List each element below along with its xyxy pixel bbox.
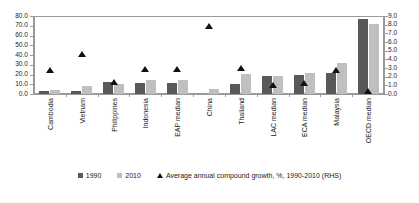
- bar-pair: [352, 16, 384, 94]
- x-axis-tick-label: OECD median: [365, 98, 372, 143]
- y-tickmark-left-icon: [30, 94, 33, 95]
- y-tick-left: 40.0: [15, 52, 28, 59]
- y-tickmark-right-icon: [385, 51, 388, 52]
- axis-line-bottom: [33, 94, 385, 95]
- bar-group[interactable]: [66, 16, 98, 94]
- bar-group[interactable]: [161, 16, 193, 94]
- bar-group[interactable]: [289, 16, 321, 94]
- x-axis-tick-label: ECA median: [301, 98, 308, 137]
- x-label-slot: LAC median: [257, 98, 289, 164]
- bar-group[interactable]: [34, 16, 66, 94]
- x-tickmark-icon: [352, 94, 353, 97]
- growth-marker-triangle-icon[interactable]: [269, 82, 277, 88]
- bar-1990[interactable]: [71, 91, 81, 94]
- x-label-slot: ECA median: [289, 98, 321, 164]
- legend-swatch-1990-icon: [78, 173, 83, 178]
- bar-2010[interactable]: [114, 84, 124, 94]
- y-tick-right: 9.0: [388, 13, 397, 20]
- x-axis-labels: CambodiaVietnamPhilippinesIndonesiaEAP m…: [34, 98, 384, 164]
- growth-marker-triangle-icon[interactable]: [110, 79, 118, 85]
- bar-2010[interactable]: [146, 80, 156, 94]
- bar-2010[interactable]: [178, 80, 188, 94]
- growth-marker-triangle-icon[interactable]: [46, 67, 54, 73]
- y-tick-right: 6.0: [388, 39, 397, 46]
- y-tick-right: 1.0: [388, 82, 397, 89]
- growth-marker-triangle-icon[interactable]: [300, 80, 308, 86]
- y-tick-right: 4.0: [388, 56, 397, 63]
- y-tick-right: 0.0: [388, 91, 397, 98]
- x-label-slot: Cambodia: [34, 98, 66, 164]
- bar-1990[interactable]: [326, 73, 336, 94]
- growth-marker-triangle-icon[interactable]: [173, 66, 181, 72]
- bar-2010[interactable]: [82, 86, 92, 94]
- y-tickmark-right-icon: [385, 59, 388, 60]
- x-axis-tick-label: Vietnam: [78, 98, 85, 124]
- x-axis-tick-label: Philippines: [110, 98, 117, 132]
- x-tickmark-icon: [289, 94, 290, 97]
- bar-group[interactable]: [257, 16, 289, 94]
- bar-group[interactable]: [129, 16, 161, 94]
- y-tick-right: 3.0: [388, 65, 397, 72]
- bar-group[interactable]: [320, 16, 352, 94]
- bar-2010[interactable]: [369, 24, 379, 94]
- x-axis-tick-label: EAP median: [174, 98, 181, 137]
- y-tickmark-right-icon: [385, 16, 388, 17]
- y-tick-left: 80.0: [15, 13, 28, 20]
- x-axis-tick-label: Malaysia: [333, 98, 340, 126]
- y-tickmark-left-icon: [30, 65, 33, 66]
- y-tickmark-left-icon: [30, 55, 33, 56]
- growth-marker-triangle-icon[interactable]: [78, 51, 86, 57]
- bar-group[interactable]: [225, 16, 257, 94]
- y-tickmark-left-icon: [30, 75, 33, 76]
- chart-legend: 1990 2010 Average annual compound growth…: [0, 168, 419, 182]
- bar-group[interactable]: [352, 16, 384, 94]
- x-tickmark-icon: [161, 94, 162, 97]
- bar-1990[interactable]: [230, 84, 240, 94]
- bar-2010[interactable]: [241, 74, 251, 94]
- legend-item-growth: Average annual compound growth, %, 1990-…: [157, 172, 341, 179]
- y-tick-left: 20.0: [15, 71, 28, 78]
- x-tickmark-icon: [257, 94, 258, 97]
- y-tickmark-left-icon: [30, 45, 33, 46]
- growth-marker-triangle-icon[interactable]: [237, 65, 245, 71]
- legend-label-growth: Average annual compound growth, %, 1990-…: [166, 172, 341, 179]
- y-tickmark-right-icon: [385, 77, 388, 78]
- bar-1990[interactable]: [135, 83, 145, 94]
- bar-group[interactable]: [98, 16, 130, 94]
- x-axis-tick-label: Thailand: [237, 98, 244, 125]
- x-label-slot: Indonesia: [129, 98, 161, 164]
- y-axis-right: 0.01.02.03.04.05.06.07.08.09.0: [388, 10, 418, 100]
- x-axis-tick-label: China: [205, 98, 212, 116]
- y-tick-left: 50.0: [15, 42, 28, 49]
- bar-pair: [161, 16, 193, 94]
- bar-1990[interactable]: [167, 83, 177, 94]
- bar-group[interactable]: [193, 16, 225, 94]
- y-tick-left: 70.0: [15, 22, 28, 29]
- axis-line-right: [384, 16, 385, 94]
- y-tick-left: 0.0: [19, 91, 28, 98]
- x-label-slot: Philippines: [98, 98, 130, 164]
- y-tick-right: 7.0: [388, 30, 397, 37]
- y-tick-right: 2.0: [388, 73, 397, 80]
- bar-2010[interactable]: [50, 90, 60, 94]
- y-tickmark-right-icon: [385, 68, 388, 69]
- y-tickmark-right-icon: [385, 25, 388, 26]
- growth-marker-triangle-icon[interactable]: [332, 67, 340, 73]
- y-tick-left: 10.0: [15, 81, 28, 88]
- x-label-slot: OECD median: [352, 98, 384, 164]
- legend-label-1990: 1990: [86, 172, 102, 179]
- y-tick-left: 60.0: [15, 32, 28, 39]
- growth-marker-triangle-icon[interactable]: [205, 23, 213, 29]
- y-tick-right: 5.0: [388, 47, 397, 54]
- bar-2010[interactable]: [209, 89, 219, 94]
- y-axis-left: 0.010.020.030.040.050.060.070.080.0: [0, 10, 30, 100]
- legend-triangle-icon: [157, 173, 163, 178]
- x-label-slot: Malaysia: [320, 98, 352, 164]
- x-axis-tick-label: Cambodia: [46, 98, 53, 130]
- growth-marker-triangle-icon[interactable]: [141, 66, 149, 72]
- growth-marker-triangle-icon[interactable]: [364, 88, 372, 94]
- bar-1990[interactable]: [358, 19, 368, 94]
- bar-1990[interactable]: [39, 91, 49, 94]
- y-tick-left: 30.0: [15, 61, 28, 68]
- y-tickmark-right-icon: [385, 94, 388, 95]
